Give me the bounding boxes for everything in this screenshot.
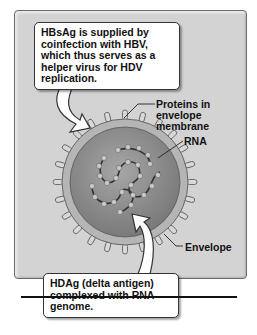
hbsag-callout-pointer [57,84,90,132]
virion-core [70,127,180,237]
proteins-leader [124,104,155,118]
bottom-rule [21,296,237,298]
proteins-label: Proteins in envelope membrane [156,99,236,132]
envelope-leader [164,234,183,246]
rna-label: RNA [184,136,207,147]
envelope-label: Envelope [185,242,232,253]
hbsag-callout: HBsAg is supplied by coinfection with HB… [34,22,180,90]
